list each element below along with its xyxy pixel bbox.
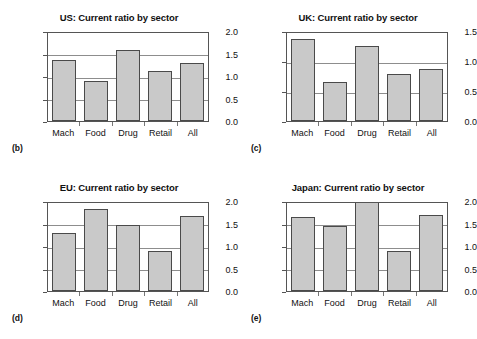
x-axis-tick-mark: [177, 292, 178, 296]
x-axis-tick-mark: [416, 292, 417, 296]
bar-drug: [116, 50, 139, 121]
chart-panel-b: US: Current ratio by sector0.00.51.01.52…: [0, 0, 238, 169]
bar-drug: [116, 225, 139, 291]
bar-slot: [287, 203, 319, 291]
bar-slot: [48, 33, 80, 121]
bar-slot: [80, 203, 112, 291]
chart-title: Japan: Current ratio by sector: [239, 182, 477, 193]
bar-slot: [144, 33, 176, 121]
x-axis-tick-label-all: All: [427, 298, 437, 308]
plot-area: [47, 202, 209, 292]
bar-all: [419, 215, 442, 292]
x-axis-tick-label-food: Food: [85, 298, 106, 308]
chart-panel-d: EU: Current ratio by sector0.00.51.01.52…: [0, 170, 238, 339]
bar-series: [48, 203, 208, 291]
bar-slot: [112, 33, 144, 121]
bar-drug: [355, 203, 378, 291]
x-axis-tick-mark: [318, 122, 319, 126]
x-axis-tick-mark: [351, 122, 352, 126]
bar-mach: [291, 39, 314, 121]
y-axis-tick-mark: [43, 292, 47, 293]
bar-slot: [383, 33, 415, 121]
bar-food: [323, 226, 346, 291]
x-axis-tick-label-drug: Drug: [118, 128, 138, 138]
x-axis-tick-label-food: Food: [85, 128, 106, 138]
bar-mach: [291, 217, 314, 291]
chart-title: US: Current ratio by sector: [0, 12, 238, 23]
figure-panel-grid: US: Current ratio by sector0.00.51.01.52…: [0, 0, 477, 339]
bar-slot: [176, 203, 208, 291]
plot-area: [47, 32, 209, 122]
x-axis-tick-label-retail: Retail: [388, 298, 411, 308]
bar-drug: [355, 46, 378, 121]
bar-food: [84, 209, 107, 291]
bar-series: [48, 33, 208, 121]
bar-slot: [176, 33, 208, 121]
y-axis-tick-mark: [282, 122, 286, 123]
x-axis-tick-mark: [144, 122, 145, 126]
bar-all: [180, 216, 203, 291]
plot-area: [286, 202, 448, 292]
x-axis-tick-mark: [383, 292, 384, 296]
bar-series: [287, 203, 447, 291]
x-axis-tick-label-drug: Drug: [357, 298, 377, 308]
bar-slot: [351, 203, 383, 291]
bar-slot: [287, 33, 319, 121]
bar-slot: [80, 33, 112, 121]
plot-area: [286, 32, 448, 122]
x-axis-tick-mark: [144, 292, 145, 296]
x-axis-tick-mark: [318, 292, 319, 296]
bar-mach: [52, 60, 75, 121]
y-axis-tick-mark: [43, 122, 47, 123]
x-axis-tick-mark: [416, 122, 417, 126]
chart-title: UK: Current ratio by sector: [239, 12, 477, 23]
chart-panel-e: Japan: Current ratio by sector0.00.51.01…: [239, 170, 477, 339]
panel-label-e: (e): [251, 313, 261, 323]
x-axis-tick-mark: [383, 122, 384, 126]
bar-slot: [48, 203, 80, 291]
panel-label-d: (d): [12, 313, 23, 323]
x-axis-tick-mark: [177, 122, 178, 126]
x-axis-tick-mark: [112, 122, 113, 126]
x-axis-tick-label-all: All: [427, 128, 437, 138]
panel-label-c: (c): [251, 143, 261, 153]
x-axis-tick-label-mach: Mach: [291, 128, 313, 138]
x-axis-tick-label-mach: Mach: [52, 298, 74, 308]
x-axis-tick-label-retail: Retail: [388, 128, 411, 138]
x-axis-tick-label-drug: Drug: [357, 128, 377, 138]
bar-series: [287, 33, 447, 121]
bar-retail: [387, 251, 410, 291]
x-axis-tick-mark: [112, 292, 113, 296]
bar-retail: [148, 251, 171, 292]
bar-food: [84, 81, 107, 121]
bar-slot: [112, 203, 144, 291]
bar-slot: [415, 203, 447, 291]
bar-slot: [144, 203, 176, 291]
bar-all: [419, 69, 442, 121]
x-axis-tick-label-all: All: [188, 128, 198, 138]
x-axis-tick-mark: [351, 292, 352, 296]
y-axis-tick-mark: [282, 292, 286, 293]
bar-slot: [319, 33, 351, 121]
bar-retail: [387, 74, 410, 121]
x-axis-tick-label-food: Food: [324, 298, 345, 308]
bar-all: [180, 63, 203, 121]
x-axis-tick-label-retail: Retail: [149, 128, 172, 138]
bar-food: [323, 82, 346, 121]
bar-mach: [52, 233, 75, 292]
x-axis-tick-label-drug: Drug: [118, 298, 138, 308]
x-axis-tick-label-mach: Mach: [52, 128, 74, 138]
x-axis-tick-mark: [79, 292, 80, 296]
x-axis-tick-mark: [79, 122, 80, 126]
bar-slot: [319, 203, 351, 291]
bar-retail: [148, 71, 171, 121]
panel-label-b: (b): [12, 143, 23, 153]
bar-slot: [351, 33, 383, 121]
x-axis-tick-label-retail: Retail: [149, 298, 172, 308]
x-axis-tick-label-food: Food: [324, 128, 345, 138]
x-axis-tick-label-all: All: [188, 298, 198, 308]
bar-slot: [415, 33, 447, 121]
chart-panel-c: UK: Current ratio by sector0.00.51.01.5M…: [239, 0, 477, 169]
chart-title: EU: Current ratio by sector: [0, 182, 238, 193]
x-axis-tick-label-mach: Mach: [291, 298, 313, 308]
